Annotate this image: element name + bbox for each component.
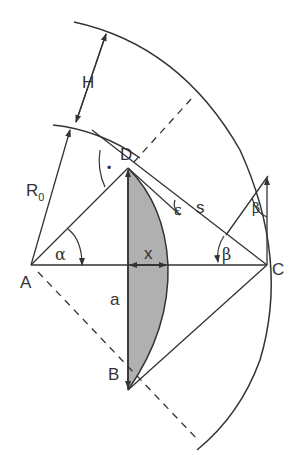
outer-arc (74, 22, 271, 450)
label-s: s (196, 198, 205, 217)
point-C: C (272, 260, 284, 279)
beta-ray (226, 176, 268, 235)
label-beta-1: β (222, 245, 231, 264)
point-A: A (20, 273, 32, 292)
label-epsilon: ε (174, 201, 182, 219)
geometry-diagram: H R0 D A C B s a x α β β ε • (0, 0, 299, 455)
label-H: H (82, 73, 94, 92)
point-D: D (120, 145, 132, 164)
label-R0: R0 (26, 181, 44, 203)
label-a: a (110, 290, 120, 309)
right-angle-mark (99, 150, 105, 187)
dashed-line-D (134, 98, 192, 162)
alpha-arc (68, 229, 82, 265)
label-alpha: α (55, 245, 66, 264)
right-angle-dot: • (107, 161, 111, 175)
point-B: B (108, 365, 119, 384)
label-beta-2: β (252, 200, 260, 216)
label-x: x (144, 244, 153, 263)
